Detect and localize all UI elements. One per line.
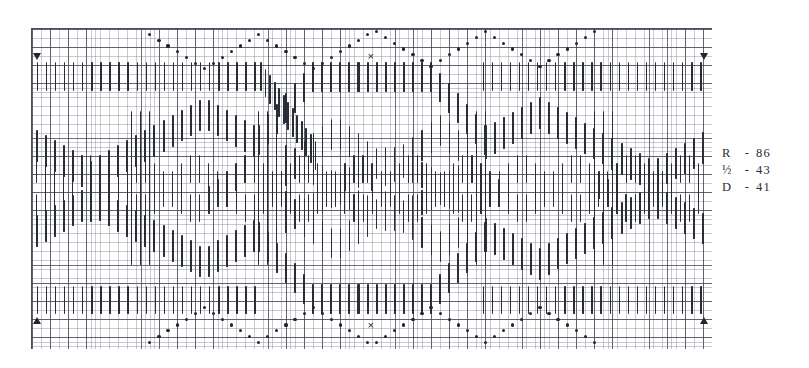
stitch-bar	[340, 119, 341, 150]
registration-dot	[393, 329, 396, 332]
stitch-bar	[260, 62, 262, 91]
stitch-bar	[73, 286, 74, 315]
stitch-bar	[693, 208, 695, 240]
stitch-bar	[358, 213, 359, 244]
stitch-bar	[91, 62, 92, 91]
stitch-bar	[492, 62, 493, 91]
stitch-bar	[673, 286, 674, 315]
stitch-bar	[539, 97, 541, 129]
stitch-bar	[331, 119, 332, 150]
registration-dot	[584, 335, 587, 338]
stitch-bar	[626, 155, 627, 183]
stitch-bar	[517, 194, 518, 222]
registration-dot	[266, 39, 269, 42]
stitch-bar	[544, 171, 545, 199]
stitch-bar	[91, 286, 92, 315]
stitch-bar	[181, 163, 182, 191]
stitch-bar	[600, 286, 601, 315]
stitch-bar	[628, 286, 629, 315]
stitch-bar	[226, 179, 227, 207]
stitch-bar	[662, 179, 663, 207]
stitch-bar	[155, 62, 156, 91]
stitch-bar	[236, 286, 237, 315]
registration-dot	[166, 329, 169, 332]
stitch-bar	[637, 62, 638, 91]
stitch-bar	[431, 185, 432, 210]
stitch-bar	[691, 286, 692, 315]
stitch-bar	[372, 186, 373, 214]
registration-dot	[284, 323, 287, 326]
registration-dot	[484, 30, 487, 33]
stitch-bar	[172, 171, 173, 199]
stitch-bar	[357, 284, 359, 314]
stitch-bar	[646, 286, 647, 315]
registration-dot	[566, 323, 569, 326]
stitch-bar	[412, 157, 413, 182]
stitch-bar	[483, 62, 484, 91]
stitch-bar	[335, 179, 336, 207]
stitch-bar	[299, 155, 300, 183]
stitch-bar	[648, 158, 650, 190]
stitch-bar	[254, 194, 255, 222]
stitch-bar	[528, 62, 529, 91]
registration-dot	[176, 323, 179, 326]
registration-dot	[194, 312, 197, 315]
stitch-bar	[628, 62, 629, 91]
stitch-bar	[308, 155, 309, 183]
stitch-bar	[501, 62, 502, 91]
stitch-bar	[292, 108, 294, 137]
stitch-bar	[449, 224, 450, 255]
stitch-bar	[276, 111, 277, 265]
stitch-bar	[308, 194, 309, 222]
stitch-bar	[54, 140, 56, 172]
stitch-bar	[557, 238, 559, 270]
stitch-bar	[471, 155, 472, 183]
stitch-bar	[517, 155, 518, 183]
stitch-bar	[580, 155, 581, 183]
stitch-bar	[439, 73, 441, 103]
registration-dot	[221, 318, 224, 321]
stitch-bar	[385, 284, 387, 314]
registration-dot	[284, 50, 287, 53]
stitch-bar	[501, 286, 502, 315]
legend: R - 86 ½ - 43 D - 41	[722, 146, 806, 197]
stitch-bar	[310, 134, 312, 163]
stitch-bar	[499, 171, 500, 199]
registration-dot	[529, 59, 532, 62]
stitch-bar	[555, 286, 556, 315]
stitch-bar	[140, 111, 141, 265]
stitch-bar	[285, 253, 287, 283]
stitch-bar	[417, 194, 418, 222]
stitch-bar	[394, 205, 395, 230]
registration-dot	[493, 36, 496, 39]
registration-dot	[402, 47, 405, 50]
stitch-bar	[73, 62, 74, 91]
stitch-bar	[217, 105, 219, 137]
registration-dot	[157, 39, 160, 42]
stitch-bar	[458, 187, 459, 212]
stitch-bar	[689, 155, 690, 183]
registration-dot	[466, 42, 469, 45]
stitch-bar	[435, 171, 436, 199]
stitch-bar	[349, 220, 350, 251]
stitch-bar	[127, 62, 128, 91]
stitch-bar	[349, 126, 350, 157]
stitch-bar	[564, 62, 565, 91]
stitch-bar	[508, 163, 509, 191]
stitch-bar	[367, 157, 368, 182]
stitch-bar	[394, 62, 396, 92]
stitch-bar	[340, 228, 341, 259]
stitch-bar	[82, 62, 83, 91]
stitch-bar	[146, 286, 147, 315]
stitch-bar	[657, 187, 659, 219]
stitch-bar	[118, 179, 119, 207]
stitch-bar	[573, 286, 574, 315]
registration-dot	[547, 312, 550, 315]
stitch-bar	[330, 284, 332, 314]
stitch-bar	[290, 163, 291, 191]
stitch-bar	[625, 194, 626, 222]
stitch-bar	[305, 128, 307, 157]
stitch-bar	[621, 202, 623, 234]
stitch-bar	[385, 205, 386, 230]
stitch-bar	[521, 238, 523, 270]
